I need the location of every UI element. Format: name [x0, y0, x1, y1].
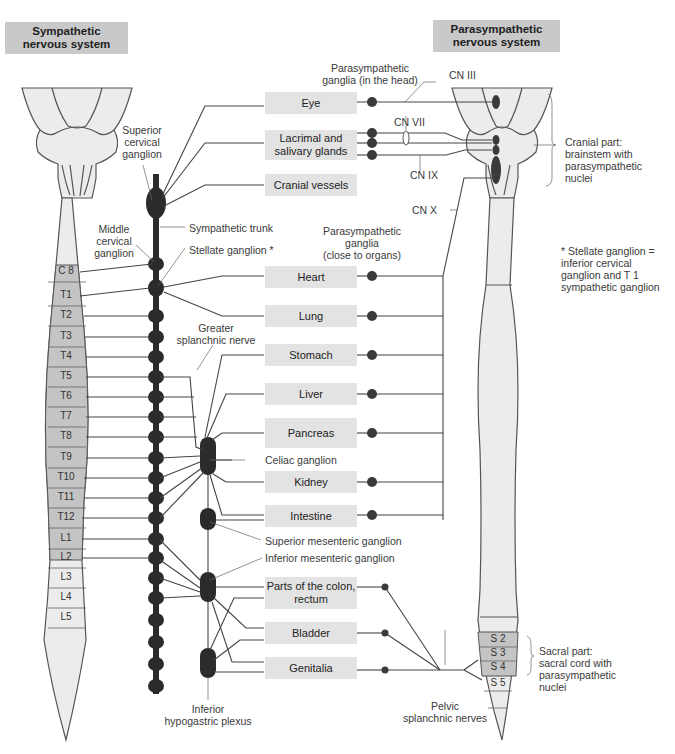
organ-pancreas: Pancreas	[265, 418, 357, 448]
cranial-part-label: Cranial part:brainstem withparasympathet…	[565, 136, 642, 184]
spinal-segment-label: L1	[60, 532, 71, 543]
cn7-label: CN VII	[394, 116, 425, 128]
organ-label: Bladder	[292, 627, 330, 640]
left-brainstem	[22, 88, 132, 198]
spinal-segment-label: T2	[60, 309, 72, 320]
organ-label: Liver	[299, 388, 323, 401]
spinal-segment-label: T4	[60, 350, 72, 361]
sympathetic-chain-ganglion	[148, 532, 164, 546]
spinal-segment-label: T6	[60, 390, 72, 401]
sympathetic-chain-ganglion	[148, 491, 164, 505]
organ-label: Parts of the colon,	[267, 580, 356, 593]
cn3-label: CN III	[449, 69, 476, 81]
organ-label: Cranial vessels	[274, 179, 349, 192]
sympathetic-chain-ganglion	[148, 330, 164, 344]
spinal-segment-label: T5	[60, 370, 72, 381]
sacral-part-label: Sacral part:sacral cord withparasympathe…	[539, 645, 616, 693]
inferior-mesenteric-ganglion	[200, 572, 216, 602]
sympathetic-chain-ganglion	[148, 613, 164, 627]
sympathetic-chain-ganglion	[148, 679, 164, 693]
header-line: nervous system	[433, 36, 560, 49]
parasympathetic-header: Parasympathetic nervous system	[433, 20, 560, 52]
spinal-segment-label: T9	[60, 451, 72, 462]
organ-stomach: Stomach	[265, 344, 357, 366]
cn10-label: CN X	[412, 204, 437, 216]
sympathetic-chain-ganglion	[148, 350, 164, 364]
sympathetic-chain-ganglion	[148, 657, 164, 671]
organ-genitalia: Genitalia	[265, 657, 357, 679]
organ-label: Kidney	[294, 476, 328, 489]
header-line: Sympathetic	[5, 25, 128, 38]
organ-label: salivary glands	[275, 145, 348, 158]
spinal-segment-label: T3	[60, 330, 72, 341]
stellate-ganglion-label: Stellate ganglion *	[189, 244, 274, 256]
middle-cervical-label: Middlecervicalganglion	[94, 223, 134, 259]
organ-liver: Liver	[265, 383, 357, 405]
organ-label: Pancreas	[288, 427, 334, 440]
spinal-segment-label: L3	[60, 571, 71, 582]
organ-label: Stomach	[289, 349, 332, 362]
organ-lacrimal-salivary: Lacrimal andsalivary glands	[265, 130, 357, 160]
spinal-segment-label: C 8	[58, 265, 74, 276]
celiac-ganglion-label: Celiac ganglion	[265, 454, 337, 466]
para-ganglia-head-label: Parasympatheticganglia (in the head)	[322, 62, 418, 86]
organ-label: Genitalia	[289, 662, 332, 675]
spinal-segment-label: T12	[57, 511, 74, 522]
sympathetic-header: Sympathetic nervous system	[5, 22, 128, 54]
spinal-segment-label: T10	[57, 471, 74, 482]
organ-label: rectum	[294, 593, 328, 606]
cn9-label: CN IX	[410, 169, 438, 181]
sacral-segment-label: S 3	[490, 647, 505, 658]
organ-label: Eye	[302, 97, 321, 110]
inferior-mesenteric-label: Inferior mesenteric ganglion	[265, 552, 395, 564]
superior-mesenteric-ganglion	[200, 508, 216, 530]
spinal-segment-label: T7	[60, 410, 72, 421]
pelvic-splanchnic-label: Pelvicsplanchnic nerves	[403, 700, 487, 724]
organ-label: Lung	[299, 310, 323, 323]
organ-label: Heart	[298, 271, 325, 284]
organ-colon-rectum: Parts of the colon,rectum	[265, 577, 357, 609]
organ-intestine: Intestine	[265, 505, 357, 527]
para-ganglia-organs-label: Parasympatheticganglia(close to organs)	[323, 225, 401, 261]
inferior-hypogastric-plexus	[200, 648, 216, 678]
spinal-segment-label: L4	[60, 591, 71, 602]
organ-eye: Eye	[265, 92, 357, 114]
spinal-segment-label: L5	[60, 611, 71, 622]
header-line: Parasympathetic	[433, 23, 560, 36]
spinal-segment-label: T1	[60, 289, 72, 300]
organ-bladder: Bladder	[265, 622, 357, 644]
sympathetic-chain-ganglion	[148, 551, 164, 565]
spinal-segment-label: T11	[58, 491, 75, 502]
celiac-ganglion	[200, 437, 216, 475]
organ-cranial-vessels: Cranial vessels	[265, 174, 357, 196]
sacral-segment-label: S 2	[490, 633, 505, 644]
stellate-footnote: * Stellate ganglion =inferior cervicalga…	[561, 245, 660, 293]
spinal-segment-label: T8	[60, 430, 72, 441]
inferior-hypogastric-label: Inferiorhypogastric plexus	[165, 703, 252, 727]
organ-label: Lacrimal and	[280, 132, 343, 145]
sympathetic-chain-ganglion	[148, 635, 164, 649]
sympathetic-chain-ganglion	[148, 309, 164, 323]
sympathetic-chain-ganglion	[148, 511, 164, 525]
organ-kidney: Kidney	[265, 471, 357, 493]
organ-lung: Lung	[265, 305, 357, 327]
header-line: nervous system	[5, 38, 128, 51]
superior-mesenteric-label: Superior mesenteric ganglion	[265, 535, 402, 547]
sympathetic-trunk-label: Sympathetic trunk	[189, 222, 273, 234]
organ-label: Intestine	[290, 510, 332, 523]
greater-splanchnic-label: Greatersplanchnic nerve	[177, 322, 256, 346]
organ-heart: Heart	[265, 266, 357, 288]
spinal-segment-label: L2	[60, 551, 71, 562]
sympathetic-chain-ganglion	[148, 471, 164, 485]
sacral-segment-label: S 5	[490, 677, 505, 688]
superior-cervical-label: Superiorcervicalganglion	[122, 124, 162, 160]
superior-cervical-ganglion	[146, 187, 166, 219]
sacral-segment-label: S 4	[490, 661, 505, 672]
